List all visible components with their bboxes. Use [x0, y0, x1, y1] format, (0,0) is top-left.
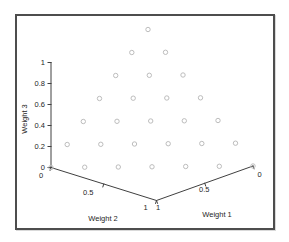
- data-point-marker: [200, 141, 204, 145]
- data-point-marker: [150, 165, 154, 169]
- data-point-marker: [163, 50, 167, 54]
- screenshot-root: Weight 3 Weight 2 Weight 1 00.20.40.60.8…: [0, 0, 289, 242]
- weight2-tick: [103, 184, 104, 187]
- weight2-tick-label: 0.5: [83, 188, 93, 197]
- data-point-marker: [149, 119, 153, 123]
- data-point-marker: [184, 164, 188, 168]
- weight3-tick-label: 0.8: [35, 79, 45, 88]
- data-point-marker: [182, 119, 186, 123]
- data-point-marker: [233, 141, 237, 145]
- data-point-marker: [115, 119, 119, 123]
- weight3-tick-label: 0.4: [35, 121, 45, 130]
- data-point-marker: [65, 142, 69, 146]
- data-point-marker: [114, 73, 118, 77]
- plot-canvas: 00.20.40.60.8100.5110.50: [0, 0, 289, 242]
- data-point-marker: [216, 118, 220, 122]
- data-point-marker: [83, 165, 87, 169]
- weight3-tick-label: 1: [41, 58, 45, 67]
- weight1-tick-label: 1: [156, 203, 160, 212]
- data-point-marker: [99, 142, 103, 146]
- weight3-tick-label: 0.6: [35, 100, 45, 109]
- data-point-marker: [132, 142, 136, 146]
- weight2-tick-label: 0: [39, 171, 43, 180]
- data-point-marker: [130, 50, 134, 54]
- data-point-marker: [198, 96, 202, 100]
- weight2-tick-label: 1: [143, 203, 147, 212]
- data-point-marker: [181, 73, 185, 77]
- weight3-tick-label: 0.2: [35, 142, 45, 151]
- data-point-marker: [147, 73, 151, 77]
- weight1-tick-label: 0: [257, 170, 261, 179]
- data-point-marker: [146, 27, 150, 31]
- data-point-marker: [116, 165, 120, 169]
- data-point-marker: [166, 142, 170, 146]
- data-point-marker: [97, 96, 101, 100]
- data-point-marker: [165, 96, 169, 100]
- data-point-marker: [217, 164, 221, 168]
- data-point-marker: [131, 96, 135, 100]
- weight1-tick-label: 0.5: [199, 185, 209, 194]
- data-point-marker: [81, 119, 85, 123]
